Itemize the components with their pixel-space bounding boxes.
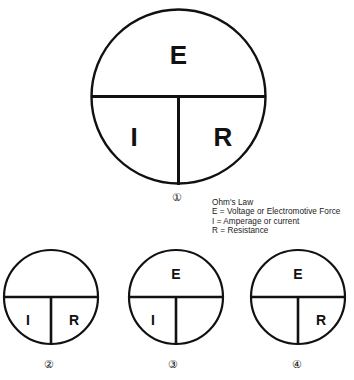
wheel-4-letter-e: E — [293, 266, 302, 282]
wheel-2-letter-r: R — [69, 312, 79, 328]
wheel-3-letter-i: I — [151, 312, 155, 328]
legend-line-r: R = Resistance — [212, 226, 354, 235]
wheel-3-small: E I — [127, 248, 225, 346]
clipped-footer-caption — [36, 374, 256, 380]
wheel-1-svg: E I R — [89, 7, 268, 186]
ohms-law-figure: E I R ① I R ② — [0, 0, 354, 380]
figure-number-4: ④ — [287, 359, 307, 370]
figure-number-1: ① — [167, 192, 187, 203]
wheel-1-letter-e: E — [170, 40, 187, 70]
wheel-4-small: E R — [249, 248, 347, 346]
wheel-4-letter-r: R — [316, 312, 326, 328]
wheel-1-letter-i: I — [130, 122, 137, 152]
wheel-2-small: I R — [2, 248, 100, 346]
wheel-1-large: E I R — [89, 7, 268, 186]
figure-number-3: ③ — [163, 359, 183, 370]
wheel-2-letter-i: I — [26, 312, 30, 328]
wheel-2-svg: I R — [2, 248, 100, 346]
legend-heading: Ohm's Law — [212, 198, 354, 207]
wheel-3-letter-e: E — [171, 266, 180, 282]
ohms-law-legend: Ohm's Law E = Voltage or Electromotive F… — [212, 198, 354, 236]
legend-line-i: I = Amperage or current — [212, 217, 354, 226]
figure-number-2: ② — [39, 359, 59, 370]
wheel-4-svg: E R — [249, 248, 347, 346]
wheel-1-letter-r: R — [214, 122, 233, 152]
legend-line-e: E = Voltage or Electromotive Force — [212, 207, 354, 216]
wheel-3-svg: E I — [127, 248, 225, 346]
